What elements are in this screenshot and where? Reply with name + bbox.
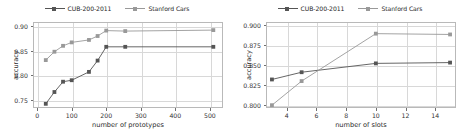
x-tick-mark [175, 108, 176, 111]
x-tick-label: 0 [35, 112, 39, 119]
x-tick-label: 400 [169, 112, 181, 119]
data-point-marker [61, 80, 65, 84]
y-tick-mark [264, 45, 267, 46]
data-point-marker [104, 29, 108, 33]
figure-canvas: CUB-200-2011Stanford Cars 01002003004005… [0, 0, 467, 136]
data-point-marker [87, 38, 91, 42]
x-tick-mark [106, 108, 107, 111]
y-tick-mark [31, 100, 34, 101]
data-point-marker [96, 34, 100, 38]
y-tick-mark [264, 25, 267, 26]
x-tick-mark [72, 108, 73, 111]
x-axis-title-right: number of slots [335, 121, 387, 129]
y-tick-label: 0.90 [0, 23, 28, 30]
data-point-marker [211, 28, 215, 32]
data-point-marker [61, 44, 65, 48]
y-tick-label: 0.75 [0, 96, 28, 103]
x-tick-label: 4 [285, 112, 289, 119]
data-point-marker [44, 58, 48, 62]
chart-panel-left: CUB-200-2011Stanford Cars 01002003004005… [0, 0, 234, 136]
y-tick-mark [264, 65, 267, 66]
data-point-marker [374, 32, 378, 36]
chart-panel-right: CUB-200-2011Stanford Cars 4681012140.800… [233, 0, 467, 136]
data-point-marker [300, 79, 304, 83]
y-tick-mark [31, 75, 34, 76]
x-tick-label: 6 [315, 112, 319, 119]
series-line-2 [272, 34, 450, 106]
y-tick-label: 0.900 [233, 21, 261, 28]
data-point-marker [70, 78, 74, 82]
x-tick-mark [141, 108, 142, 111]
data-point-marker [211, 45, 215, 49]
data-point-marker [104, 45, 108, 49]
x-tick-mark [316, 108, 317, 111]
data-point-marker [96, 59, 100, 63]
x-tick-label: 500 [204, 112, 216, 119]
x-tick-mark [210, 108, 211, 111]
series-line-1 [272, 63, 450, 80]
data-point-marker [44, 102, 48, 106]
data-point-marker [448, 61, 452, 65]
x-tick-label: 8 [344, 112, 348, 119]
data-point-marker [70, 40, 74, 44]
data-point-marker [270, 78, 274, 82]
series-line-1 [46, 47, 214, 104]
y-tick-mark [264, 105, 267, 106]
y-tick-mark [31, 51, 34, 52]
data-point-marker [300, 70, 304, 74]
y-axis-title-left: accuracy [12, 37, 20, 93]
x-axis-title-left: number of prototypes [92, 121, 164, 129]
x-tick-label: 300 [135, 112, 147, 119]
x-tick-mark [406, 108, 407, 111]
x-tick-mark [435, 108, 436, 111]
data-point-marker [123, 29, 127, 33]
data-point-marker [270, 103, 274, 107]
y-tick-mark [31, 26, 34, 27]
x-tick-label: 14 [431, 112, 439, 119]
y-axis-title-right: accuracy [245, 37, 253, 93]
data-point-marker [53, 50, 57, 54]
x-tick-mark [287, 108, 288, 111]
x-tick-label: 12 [402, 112, 410, 119]
x-tick-mark [37, 108, 38, 111]
data-point-marker [123, 45, 127, 49]
x-tick-label: 10 [372, 112, 380, 119]
series-line-2 [46, 30, 214, 60]
y-tick-label: 0.800 [233, 102, 261, 109]
x-tick-label: 100 [66, 112, 78, 119]
data-point-marker [87, 70, 91, 74]
x-tick-mark [376, 108, 377, 111]
x-tick-mark [346, 108, 347, 111]
data-point-marker [448, 33, 452, 37]
data-point-marker [53, 90, 57, 94]
y-tick-mark [264, 85, 267, 86]
data-point-marker [374, 61, 378, 65]
x-tick-label: 200 [100, 112, 112, 119]
